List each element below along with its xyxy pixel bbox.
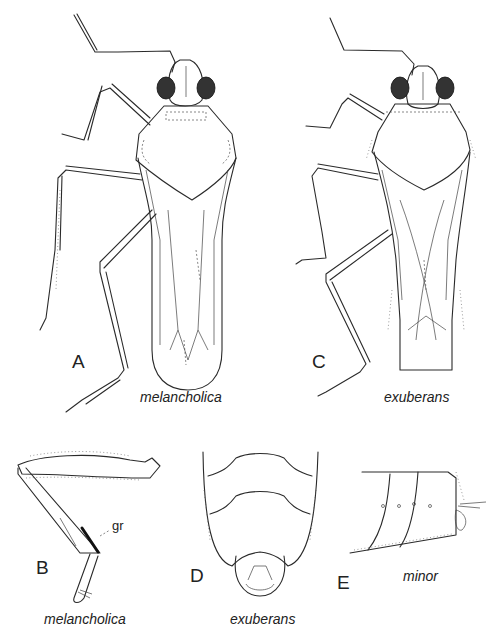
panel-label-b: B bbox=[36, 558, 49, 577]
line-drawings bbox=[0, 0, 503, 640]
panel-label-a: A bbox=[72, 352, 85, 371]
species-caption-a: melancholica bbox=[140, 390, 222, 404]
abdomen-drawing-minor-lateral bbox=[350, 472, 486, 553]
abdomen-drawing-exuberans-ventral bbox=[203, 452, 318, 596]
hind-leg-drawing-melancholica bbox=[18, 452, 160, 603]
panel-label-e: E bbox=[337, 573, 350, 592]
compound-eye-icon bbox=[157, 77, 175, 99]
insect-drawing-exuberans bbox=[296, 18, 476, 396]
groove-annotation-label: gr bbox=[112, 519, 124, 532]
panel-label-c: C bbox=[312, 352, 326, 371]
species-caption-e: minor bbox=[403, 569, 438, 583]
panel-label-d: D bbox=[190, 566, 204, 585]
species-caption-c: exuberans bbox=[384, 390, 449, 404]
species-caption-d: exuberans bbox=[230, 612, 295, 626]
species-caption-b: melancholica bbox=[44, 612, 126, 626]
figure-plate: A B C D E melancholica melancholica exub… bbox=[0, 0, 503, 640]
insect-drawing-melancholica bbox=[40, 14, 236, 412]
